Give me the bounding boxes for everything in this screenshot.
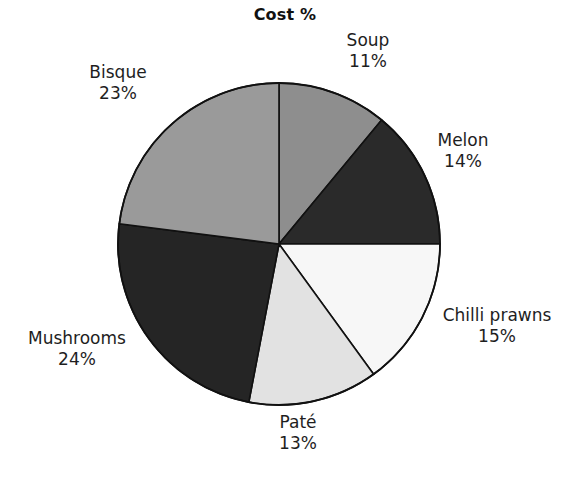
slice-label-chilli-prawns: Chilli prawns 15% [424, 305, 570, 346]
slice-label-melon: Melon 14% [408, 130, 518, 171]
slice-label-chilli-prawns-name: Chilli prawns [424, 305, 570, 326]
slice-label-mushrooms: Mushrooms 24% [2, 328, 152, 369]
slice-label-pate: Paté 13% [248, 412, 348, 453]
slice-label-mushrooms-value: 24% [2, 349, 152, 370]
slice-label-soup-name: Soup [318, 30, 418, 51]
slice-label-soup-value: 11% [318, 51, 418, 72]
pie-slice-bisque [119, 83, 279, 244]
pie-slice-group [118, 83, 440, 405]
slice-label-chilli-prawns-value: 15% [424, 326, 570, 347]
slice-label-bisque: Bisque 23% [58, 62, 178, 103]
slice-label-pate-name: Paté [248, 412, 348, 433]
slice-label-bisque-name: Bisque [58, 62, 178, 83]
slice-label-bisque-value: 23% [58, 83, 178, 104]
slice-label-pate-value: 13% [248, 433, 348, 454]
slice-label-soup: Soup 11% [318, 30, 418, 71]
pie-chart: Cost % Soup 11% Melon 14% Chilli prawns … [0, 0, 570, 477]
slice-label-melon-value: 14% [408, 151, 518, 172]
slice-label-melon-name: Melon [408, 130, 518, 151]
slice-label-mushrooms-name: Mushrooms [2, 328, 152, 349]
